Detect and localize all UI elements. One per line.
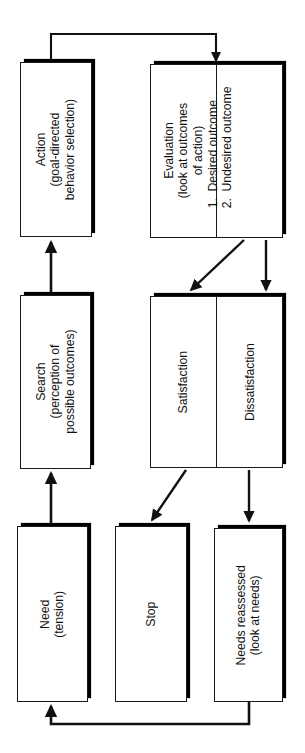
node-satisfaction-label: Satisfaction [176, 351, 190, 413]
node-evaluation-label: Evaluation (look at outcomes of action) [162, 103, 205, 198]
node-evaluation[interactable]: Evaluation (look at outcomes of action) … [150, 64, 283, 238]
node-stop[interactable]: Stop [115, 526, 187, 702]
node-need[interactable]: Need (tension) [17, 526, 88, 702]
node-search[interactable]: Search (perception of possible outcomes) [20, 295, 91, 469]
node-stop-label: Stop [144, 602, 158, 627]
edge-action-to-evaluation [51, 34, 216, 62]
node-need-label: Need (tension) [38, 591, 67, 638]
node-dissatisfaction[interactable]: Dissatisfaction [217, 297, 282, 467]
node-outcomes-label: 1. Desired outcome 2. Undesired outcome [207, 87, 236, 209]
node-action-label: Action (goal-directed behavior selection… [34, 99, 77, 200]
node-satisfaction[interactable]: Satisfaction [151, 297, 216, 467]
node-needs-reassessed-label: Needs reassessed (look at needs) [234, 565, 263, 665]
node-satisfaction-group[interactable]: Satisfaction Dissatisfaction [150, 296, 283, 468]
edge-desired-to-satisfaction [191, 240, 244, 290]
node-action[interactable]: Action (goal-directed behavior selection… [20, 62, 92, 237]
edge-satisfaction-to-stop [152, 470, 186, 520]
node-needs-reassessed[interactable]: Needs reassessed (look at needs) [214, 528, 283, 702]
flowchart-diagram: Action (goal-directed behavior selection… [0, 0, 305, 753]
node-search-label: Search (perception of possible outcomes) [34, 330, 77, 434]
node-dissatisfaction-label: Dissatisfaction [242, 343, 256, 421]
edge-needs-reassessed-to-need [51, 702, 249, 724]
